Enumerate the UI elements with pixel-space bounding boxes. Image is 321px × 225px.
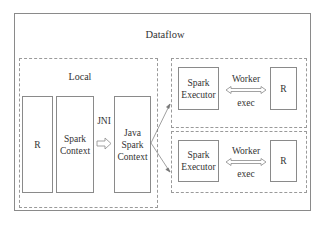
connectors xyxy=(0,0,321,225)
java-to-worker-arrows xyxy=(151,104,170,172)
double-arrow-icon-2 xyxy=(226,159,266,166)
double-arrow-icon-1 xyxy=(226,87,266,94)
jni-arrow-icon xyxy=(97,138,111,149)
